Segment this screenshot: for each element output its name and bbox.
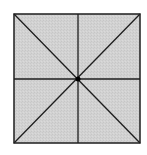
square-diagram: [0, 0, 147, 155]
center-point: [76, 77, 81, 82]
